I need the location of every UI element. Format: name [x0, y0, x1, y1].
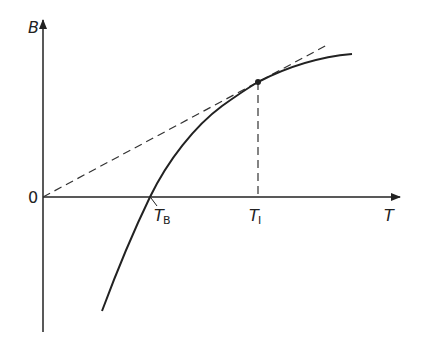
boyle-leader — [151, 198, 157, 206]
tangent-line — [43, 44, 329, 197]
boyle-temperature-subscript: B — [163, 214, 171, 227]
inversion-temperature-subscript: I — [258, 214, 261, 227]
y-axis-label: B — [28, 18, 39, 37]
origin-label: 0 — [28, 188, 38, 207]
b-curve — [102, 54, 352, 311]
tangent-point — [255, 79, 261, 85]
x-axis-label: T — [384, 206, 395, 225]
b-vs-t-diagram: B T 0 T B T I — [0, 0, 441, 344]
